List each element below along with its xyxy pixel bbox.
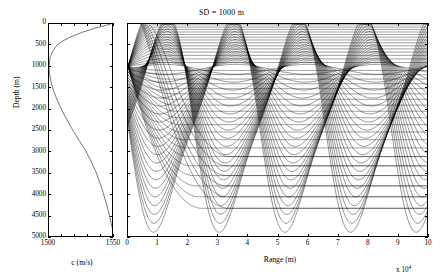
range-tickmark-10 xyxy=(428,234,429,237)
range-tickmark-8 xyxy=(368,234,369,237)
ssp-x-tickmark-top-3 xyxy=(87,23,88,26)
ray-depth-tickmark-right-4500 xyxy=(425,216,428,217)
range-tickmark-2 xyxy=(187,234,188,237)
ray-depth-tickmark-right-3000 xyxy=(425,151,428,152)
ray-path xyxy=(128,66,427,208)
depth-tickmark-1000 xyxy=(48,66,51,67)
depth-tickmark-right-4500 xyxy=(110,216,113,217)
range-tickmark-3 xyxy=(217,234,218,237)
sound-speed-axis-label: c (m/s) xyxy=(56,258,108,267)
range-tickmark-top-9 xyxy=(398,23,399,26)
depth-tickmark-right-2000 xyxy=(110,109,113,110)
ray-depth-tickmark-3000 xyxy=(127,151,130,152)
range-tickmark-6 xyxy=(308,234,309,237)
ray-trace-figure: SD = 1000 m 0500100015002000250030003500… xyxy=(0,0,443,279)
range-tickmark-top-10 xyxy=(428,23,429,26)
ssp-x-tickmark-4 xyxy=(100,234,101,237)
ssp-x-tickmark-5 xyxy=(113,234,114,237)
ray-depth-tickmark-1000 xyxy=(127,66,130,67)
exponent-power: 4 xyxy=(409,264,412,270)
ray-depth-tickmark-4500 xyxy=(127,216,130,217)
ray-depth-tickmark-right-4000 xyxy=(425,194,428,195)
depth-tickmark-right-3500 xyxy=(110,173,113,174)
depth-axis-label: Depth (m) xyxy=(12,77,21,108)
range-tickmark-top-5 xyxy=(278,23,279,26)
depth-tickmark-right-4000 xyxy=(110,194,113,195)
depth-tick-1000: 1000 xyxy=(22,62,46,69)
range-tickmark-1 xyxy=(157,234,158,237)
ray-depth-tickmark-2000 xyxy=(127,109,130,110)
ray-depth-tickmark-right-2000 xyxy=(425,109,428,110)
sound-speed-profile-plot xyxy=(49,24,112,236)
depth-tickmark-1500 xyxy=(48,87,51,88)
ray-path xyxy=(128,66,427,175)
depth-tick-2500: 2500 xyxy=(22,126,46,133)
depth-tickmark-3000 xyxy=(48,151,51,152)
ray-trace-axes xyxy=(127,23,428,237)
ray-depth-tickmark-right-500 xyxy=(425,44,428,45)
ray-depth-tickmark-4000 xyxy=(127,194,130,195)
ray-depth-tickmark-5000 xyxy=(127,237,130,238)
depth-tick-0: 0 xyxy=(22,19,46,26)
ray-path xyxy=(128,29,427,197)
ssp-x-tickmark-1 xyxy=(61,234,62,237)
depth-tickmark-right-500 xyxy=(110,44,113,45)
depth-tickmark-right-5000 xyxy=(110,237,113,238)
depth-tickmark-right-1000 xyxy=(110,66,113,67)
range-tickmark-top-6 xyxy=(308,23,309,26)
figure-title: SD = 1000 m xyxy=(0,8,443,17)
range-tickmark-top-4 xyxy=(247,23,248,26)
exponent-mantissa: x 10 xyxy=(396,266,409,274)
range-tick-3: 3 xyxy=(205,240,229,247)
range-tickmark-top-7 xyxy=(338,23,339,26)
range-tick-2: 2 xyxy=(175,240,199,247)
range-tickmark-top-2 xyxy=(187,23,188,26)
range-tick-7: 7 xyxy=(326,240,350,247)
range-tickmark-0 xyxy=(127,234,128,237)
depth-tick-1500: 1500 xyxy=(22,84,46,91)
ray-depth-tickmark-right-3500 xyxy=(425,173,428,174)
ray-depth-tickmark-right-2500 xyxy=(425,130,428,131)
ray-path xyxy=(128,24,427,166)
ray-depth-tickmark-1500 xyxy=(127,87,130,88)
ray-depth-tickmark-right-5000 xyxy=(425,237,428,238)
ssp-x-tickmark-top-5 xyxy=(113,23,114,26)
depth-tickmark-right-1500 xyxy=(110,87,113,88)
ssp-x-tickmark-0 xyxy=(48,234,49,237)
ray-depth-tickmark-2500 xyxy=(127,130,130,131)
ssp-x-tickmark-top-4 xyxy=(100,23,101,26)
range-tick-0: 0 xyxy=(115,240,139,247)
range-tick-10: 10 xyxy=(416,240,440,247)
sound-speed-curve xyxy=(49,24,112,228)
range-tick-9: 9 xyxy=(386,240,410,247)
range-tickmark-9 xyxy=(398,234,399,237)
ssp-x-tickmark-top-0 xyxy=(48,23,49,26)
ssp-x-tickmark-top-2 xyxy=(74,23,75,26)
depth-tick-2000: 2000 xyxy=(22,105,46,112)
ssp-x-tickmark-2 xyxy=(74,234,75,237)
ray-depth-tickmark-right-1000 xyxy=(425,66,428,67)
depth-tickmark-5000 xyxy=(48,237,51,238)
range-tickmark-top-1 xyxy=(157,23,158,26)
range-tickmark-7 xyxy=(338,234,339,237)
range-tick-8: 8 xyxy=(356,240,380,247)
depth-tick-3000: 3000 xyxy=(22,148,46,155)
sound-speed-tick-1500: 1500 xyxy=(36,240,60,247)
depth-tickmark-500 xyxy=(48,44,51,45)
depth-tickmark-4000 xyxy=(48,194,51,195)
range-tick-6: 6 xyxy=(296,240,320,247)
ssp-x-tickmark-3 xyxy=(87,234,88,237)
ray-depth-tickmark-3500 xyxy=(127,173,130,174)
depth-tickmark-4500 xyxy=(48,216,51,217)
ray-path xyxy=(128,66,427,148)
range-tickmark-4 xyxy=(247,234,248,237)
ssp-x-tickmark-top-1 xyxy=(61,23,62,26)
depth-tickmark-2000 xyxy=(48,109,51,110)
range-tick-5: 5 xyxy=(266,240,290,247)
range-tick-1: 1 xyxy=(145,240,169,247)
range-axis-label: Range (m) xyxy=(205,255,355,264)
range-tickmark-5 xyxy=(278,234,279,237)
range-tickmark-top-8 xyxy=(368,23,369,26)
range-axis-exponent: x 104 xyxy=(396,264,411,274)
ray-depth-tickmark-500 xyxy=(127,44,130,45)
